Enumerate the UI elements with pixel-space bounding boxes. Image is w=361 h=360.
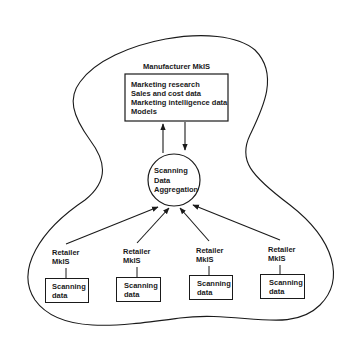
manufacturer-mkis-label: Manufacturer MkIS (143, 62, 210, 71)
retailer-4-box-line2: data (269, 287, 304, 296)
retailer-4-label-line2: MkIS (268, 254, 296, 263)
retailer-1-label: Retailer MkIS (52, 248, 80, 266)
retailer-4-box-line1: Scanning (269, 278, 304, 287)
retailer-2-label: Retailer MkIS (123, 247, 151, 265)
manufacturer-item-sales-cost: Sales and cost data (131, 89, 227, 98)
arrow-retailer-3 (180, 208, 209, 241)
retailer-3-label-line1: Retailer (196, 246, 224, 255)
retailer-2-box-line1: Scanning (124, 281, 160, 290)
aggregation-line-1: Scanning (154, 166, 198, 176)
manufacturer-box: Marketing research Sales and cost data M… (131, 80, 227, 116)
retailer-1-label-line1: Retailer (52, 248, 80, 257)
retailer-3-box-line1: Scanning (197, 279, 232, 288)
manufacturer-item-intelligence: Marketing intelligence data (131, 98, 227, 107)
retailer-3-label: Retailer MkIS (196, 246, 224, 264)
retailer-2-label-line2: MkIS (123, 256, 151, 265)
manufacturer-item-models: Models (131, 107, 227, 116)
retailer-4-scanning-box: Scanning data (260, 274, 305, 299)
retailer-1-box-line1: Scanning (52, 282, 88, 291)
manufacturer-item-marketing-research: Marketing research (131, 80, 227, 89)
aggregation-line-3: Aggregation (154, 185, 198, 195)
retailer-2-label-line1: Retailer (123, 247, 151, 256)
retailer-4-label-line1: Retailer (268, 245, 296, 254)
retailer-3-box-line2: data (197, 288, 232, 297)
retailer-2-scanning-box: Scanning data (116, 277, 161, 302)
retailer-4-label: Retailer MkIS (268, 245, 296, 263)
retailer-3-scanning-box: Scanning data (189, 275, 233, 300)
retailer-1-scanning-box: Scanning data (45, 278, 89, 303)
retailer-2-box-line2: data (124, 290, 160, 299)
retailer-1-box-line2: data (52, 291, 88, 300)
retailer-1-label-line2: MkIS (52, 257, 80, 266)
retailer-3-label-line2: MkIS (196, 255, 224, 264)
arrow-retailer-4 (193, 205, 280, 240)
aggregation-node: Scanning Data Aggregation (154, 166, 198, 195)
arrow-retailer-1 (66, 207, 158, 244)
aggregation-line-2: Data (154, 176, 198, 186)
